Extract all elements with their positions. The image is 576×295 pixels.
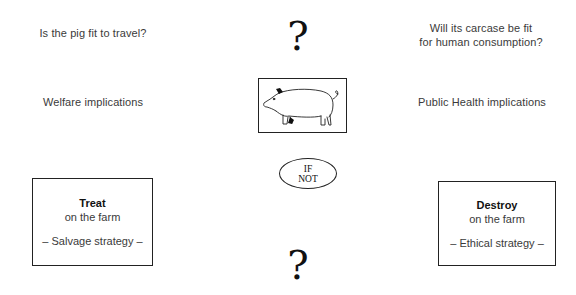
- welfare-implications-label: Welfare implications: [18, 96, 168, 108]
- pig-picture-frame: [258, 78, 347, 133]
- salvage-strategy-label: – Salvage strategy –: [42, 234, 142, 248]
- pig-icon: [259, 79, 345, 131]
- ethical-strategy-label: – Ethical strategy –: [450, 236, 544, 250]
- treat-box: Treat on the farm – Salvage strategy –: [32, 178, 153, 266]
- top-question-mark: ?: [278, 16, 318, 56]
- bottom-question-mark: ?: [278, 245, 318, 285]
- carcase-question-line2: for human consumption?: [400, 35, 562, 49]
- destroy-subtitle: on the farm: [469, 212, 525, 226]
- treat-subtitle: on the farm: [65, 210, 121, 224]
- if-not-condition: IF NOT: [279, 158, 337, 189]
- public-health-implications-label: Public Health implications: [400, 96, 564, 108]
- condition-line2: NOT: [298, 174, 318, 184]
- destroy-box: Destroy on the farm – Ethical strategy –: [438, 181, 556, 266]
- condition-line1: IF: [304, 164, 312, 174]
- carcase-question-line1: Will its carcase be fit: [400, 21, 562, 35]
- carcase-fit-question: Will its carcase be fit for human consum…: [400, 21, 562, 49]
- destroy-title: Destroy: [477, 198, 518, 212]
- fit-to-travel-question: Is the pig fit to travel?: [18, 27, 168, 39]
- treat-title: Treat: [79, 196, 105, 210]
